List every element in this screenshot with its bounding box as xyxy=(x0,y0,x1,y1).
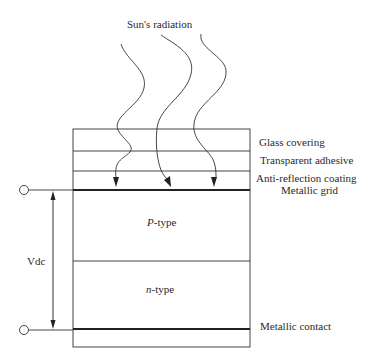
radiation-ray-3 xyxy=(194,34,226,178)
vdc-arrow-up-icon xyxy=(51,191,56,200)
glass-covering-label: Glass covering xyxy=(259,136,325,148)
bottom-terminal-icon xyxy=(20,326,29,335)
p-type-label: P-type xyxy=(147,216,176,228)
vdc-arrow-down-icon xyxy=(51,320,56,329)
anti-reflection-coating-label: Anti-reflection coating xyxy=(256,172,357,184)
p-type-suffix: -type xyxy=(154,216,177,228)
radiation-arrow-3-icon xyxy=(211,177,217,187)
radiation-ray-2 xyxy=(156,35,191,180)
radiation-arrow-2-icon xyxy=(164,176,171,187)
cell-outline xyxy=(73,129,250,347)
vdc-label: Vdc xyxy=(27,255,45,267)
metallic-grid-label: Metallic grid xyxy=(281,184,338,196)
radiation-ray-1 xyxy=(116,44,145,178)
transparent-adhesive-label: Transparent adhesive xyxy=(260,154,353,166)
n-type-label: n-type xyxy=(146,283,174,295)
sun-radiation-label: Sun's radiation xyxy=(127,18,192,30)
radiation-arrow-1-icon xyxy=(113,177,119,187)
p-type-prefix: P xyxy=(147,216,154,228)
n-type-suffix: -type xyxy=(152,283,175,295)
metallic-contact-label: Metallic contact xyxy=(260,320,331,332)
top-terminal-icon xyxy=(20,186,29,195)
